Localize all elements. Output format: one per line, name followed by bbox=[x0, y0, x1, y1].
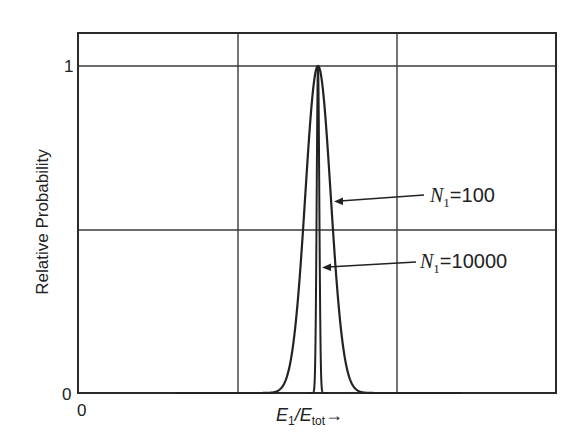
chart-canvas: 1 0 0 Relative Probability E1/Etot→ N1=1… bbox=[0, 0, 582, 446]
arrowhead-n1-100 bbox=[334, 198, 343, 206]
arrow-line-n1-100 bbox=[340, 195, 424, 201]
y-tick-0: 0 bbox=[62, 385, 71, 404]
x-axis-label: E1/Etot→ bbox=[276, 405, 343, 428]
annotation-n1-100: N1=100 bbox=[334, 184, 495, 210]
label-n1-10000: N1=10000 bbox=[419, 250, 507, 276]
x-tick-0: 0 bbox=[77, 401, 86, 420]
y-axis-label: Relative Probability bbox=[33, 149, 52, 295]
annotation-n1-10000: N1=10000 bbox=[322, 250, 507, 276]
arrow-line-n1-10000 bbox=[328, 262, 416, 267]
arrowhead-n1-10000 bbox=[322, 264, 331, 272]
label-n1-100: N1=100 bbox=[429, 184, 495, 210]
y-tick-1: 1 bbox=[64, 57, 73, 76]
